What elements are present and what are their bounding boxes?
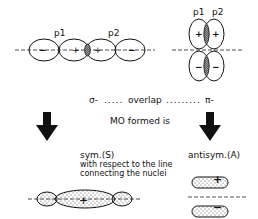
lobe-sign: + xyxy=(72,45,80,55)
lobe-sign: + xyxy=(195,29,203,39)
overlap-region xyxy=(85,44,91,56)
pi-overlap-diagram xyxy=(172,19,242,81)
overlap-label: overlap xyxy=(128,95,162,105)
arrow-down-icon xyxy=(199,112,221,141)
orbital-label-p1: p1 xyxy=(193,7,204,17)
plus-sign: + xyxy=(79,196,88,206)
antisym-label: antisym.(A) xyxy=(188,150,240,160)
dots-leader: ......... xyxy=(166,95,201,105)
arrow-down-icon xyxy=(36,112,58,141)
sym-label: sym.(S) xyxy=(80,150,114,160)
mo-formed-label: MO formed is xyxy=(110,116,170,126)
orbital-label-p2: p2 xyxy=(212,7,223,17)
orbital-label-p1: p1 xyxy=(54,28,65,38)
plus-sign: + xyxy=(213,175,222,185)
lobe-sign: + xyxy=(212,29,220,39)
lobe-sign: − xyxy=(195,62,203,72)
lobe-sign: − xyxy=(128,45,136,55)
dots-leader: ..... xyxy=(104,95,123,105)
minus-sign: − xyxy=(213,203,222,213)
lobe-sign: − xyxy=(212,62,220,72)
pi-label: π- xyxy=(205,95,214,105)
sym-note-line2: connecting the nuclei xyxy=(80,169,166,179)
sigma-label: σ- xyxy=(89,95,98,105)
lobe-sign: + xyxy=(94,45,102,55)
orbital-label-p2: p2 xyxy=(108,28,119,38)
lobe-sign: − xyxy=(39,45,47,55)
